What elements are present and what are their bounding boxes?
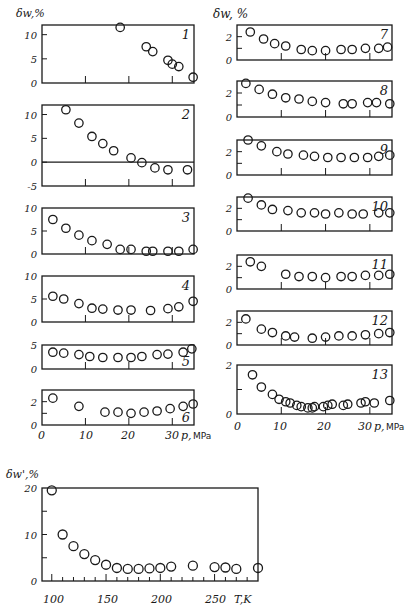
y-tick-label: 5 bbox=[31, 226, 37, 237]
data-point bbox=[297, 45, 305, 53]
y-tick-label: 10 bbox=[24, 271, 37, 282]
data-point bbox=[49, 394, 57, 402]
data-point bbox=[140, 408, 148, 416]
figure-canvas: δw,% δw, % δw',% 05101-50510205103051040… bbox=[0, 0, 416, 607]
data-point bbox=[383, 43, 391, 51]
y-tick-label: 5 bbox=[31, 340, 37, 351]
y-tick-label: 10 bbox=[24, 530, 37, 541]
chart-panel-2: -505102 bbox=[24, 105, 194, 192]
left-x-axis-labels: 0 10 20 30 p, MPa bbox=[38, 429, 211, 442]
chart-panel-4: 05104 bbox=[24, 271, 197, 328]
data-point bbox=[308, 334, 316, 342]
data-point bbox=[60, 295, 68, 303]
data-point bbox=[359, 210, 367, 218]
data-point bbox=[308, 97, 316, 105]
data-point bbox=[282, 332, 290, 340]
data-point bbox=[99, 305, 107, 313]
x-axis-unit: MPa bbox=[386, 422, 404, 432]
data-point bbox=[114, 408, 122, 416]
x-tick-10: 10 bbox=[273, 420, 287, 433]
data-point bbox=[321, 273, 329, 281]
data-point bbox=[60, 349, 68, 357]
data-point bbox=[102, 560, 111, 569]
y-tick-label: 0 bbox=[31, 78, 38, 89]
data-point bbox=[49, 292, 57, 300]
data-point bbox=[350, 153, 358, 161]
y-tick-label: 0 bbox=[31, 364, 38, 375]
x-tick-200: 200 bbox=[150, 593, 172, 606]
data-point bbox=[210, 563, 219, 572]
y-tick-label: 0 bbox=[226, 112, 233, 123]
panel-number: 6 bbox=[182, 410, 190, 425]
data-point bbox=[337, 153, 345, 161]
x-tick-20: 20 bbox=[120, 429, 135, 442]
data-point bbox=[103, 240, 111, 248]
y-tick-label: 10 bbox=[24, 203, 37, 214]
data-point bbox=[75, 402, 83, 410]
data-point bbox=[386, 328, 394, 336]
data-point bbox=[99, 139, 107, 147]
x-tick-100: 100 bbox=[43, 593, 64, 606]
data-point bbox=[284, 206, 292, 214]
plot-frame bbox=[42, 276, 194, 322]
data-point bbox=[123, 564, 132, 573]
data-point bbox=[75, 231, 83, 239]
data-point bbox=[259, 35, 267, 43]
data-point bbox=[75, 299, 83, 307]
chart-panel-7: 027 bbox=[225, 25, 392, 66]
panel-number: 7 bbox=[380, 27, 389, 42]
data-point bbox=[282, 94, 290, 102]
bottom-chart-y-label: δw',% bbox=[6, 468, 39, 481]
data-point bbox=[386, 100, 394, 108]
x-axis-unit: MPa bbox=[193, 431, 211, 441]
data-point bbox=[127, 306, 135, 314]
y-tick-label: 2 bbox=[225, 360, 232, 371]
data-point bbox=[375, 329, 383, 337]
x-axis-symbol: p, bbox=[374, 420, 385, 433]
chart-panel-6: 026 bbox=[30, 390, 198, 431]
data-point bbox=[255, 85, 263, 93]
data-point bbox=[257, 262, 265, 270]
y-tick-label: 0 bbox=[31, 249, 38, 260]
plot-frame bbox=[237, 365, 392, 414]
data-point bbox=[127, 409, 135, 417]
data-point bbox=[361, 44, 369, 52]
x-tick-150: 150 bbox=[97, 593, 118, 606]
data-point bbox=[348, 272, 356, 280]
data-point bbox=[375, 44, 383, 52]
chart-panel-11: 0211 bbox=[225, 255, 394, 295]
data-point bbox=[257, 142, 265, 150]
y-tick-label: 2 bbox=[225, 32, 232, 43]
panel-number: 2 bbox=[181, 107, 190, 122]
y-tick-label: 2 bbox=[30, 397, 37, 408]
data-point bbox=[321, 210, 329, 218]
x-axis-symbol: p, bbox=[181, 429, 192, 442]
panel-number: 3 bbox=[182, 210, 190, 225]
right-x-axis-labels: 0 10 20 30 p, MPa bbox=[234, 420, 404, 433]
chart-panel-5: 055 bbox=[31, 340, 196, 375]
panel-number: 12 bbox=[371, 313, 388, 328]
data-point bbox=[335, 332, 343, 340]
data-point bbox=[310, 152, 318, 160]
data-point bbox=[146, 306, 154, 314]
data-point bbox=[246, 258, 254, 266]
y-tick-label: 10 bbox=[24, 110, 37, 121]
data-point bbox=[189, 400, 197, 408]
data-point bbox=[138, 352, 146, 360]
data-point bbox=[386, 396, 394, 404]
data-point bbox=[47, 486, 56, 495]
data-point bbox=[153, 350, 161, 358]
data-point bbox=[257, 383, 265, 391]
panels-layer: 05101-5051020510305104055026027028029021… bbox=[23, 23, 394, 587]
data-point bbox=[348, 45, 356, 53]
y-tick-label: 2 bbox=[225, 317, 232, 328]
data-point bbox=[257, 201, 265, 209]
chart-panel-T: 01020 bbox=[23, 483, 262, 587]
chart-panel-12: 0212 bbox=[225, 311, 394, 351]
y-tick-label: 0 bbox=[226, 409, 233, 420]
data-point bbox=[127, 245, 135, 253]
data-point bbox=[295, 272, 303, 280]
x-axis-label: T,K bbox=[234, 593, 252, 606]
data-point bbox=[308, 272, 316, 280]
x-tick-0: 0 bbox=[234, 420, 241, 433]
